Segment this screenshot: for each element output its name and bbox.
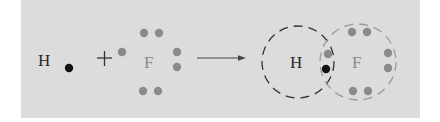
reaction-arrow	[197, 55, 246, 61]
fluorine-electron	[154, 87, 162, 95]
plus-operator	[97, 51, 112, 66]
hydrogen-electron	[65, 64, 73, 72]
fluorine-electron	[155, 29, 163, 37]
fluorine-electron	[363, 28, 371, 36]
product-fluorine-symbol: F	[352, 53, 361, 72]
fluorine-electron	[140, 29, 148, 37]
reactant-fluorine: F	[118, 29, 181, 95]
hydrogen-symbol: H	[38, 51, 50, 70]
product-hf: H F	[262, 24, 396, 100]
fluorine-electron	[348, 28, 356, 36]
fluorine-electron	[364, 87, 372, 95]
reaction-diagram: H F H F	[0, 0, 440, 122]
fluorine-electron	[173, 48, 181, 56]
product-hydrogen-symbol: H	[290, 53, 302, 72]
shared-fluorine-electron	[324, 50, 332, 58]
fluorine-electron	[349, 87, 357, 95]
fluorine-electron	[173, 63, 181, 71]
fluorine-electron	[384, 49, 392, 57]
shared-hydrogen-electron	[322, 65, 330, 73]
fluorine-electron	[139, 87, 147, 95]
fluorine-electron	[118, 48, 126, 56]
fluorine-electron	[384, 64, 392, 72]
reactant-hydrogen: H	[38, 51, 73, 72]
fluorine-symbol: F	[144, 53, 153, 72]
